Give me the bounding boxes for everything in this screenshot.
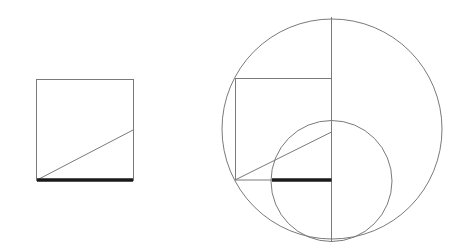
right-diagonal-segment [235,132,332,180]
geometry-diagram [0,0,455,250]
left-figure [37,80,134,181]
left-square [37,80,134,181]
right-figure [222,17,442,242]
left-diagonal-segment [37,130,133,180]
